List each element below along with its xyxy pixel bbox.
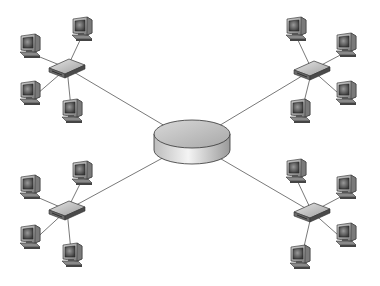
monitor-screen-icon <box>23 84 33 95</box>
computer-bottom-right-3-icon <box>336 223 356 247</box>
computer-bottom-left-3-icon <box>20 225 40 249</box>
monitor-screen-icon <box>293 248 303 259</box>
computer-top-right-3-icon <box>336 81 356 105</box>
computer-bottom-right-4-icon <box>290 245 310 269</box>
monitor-screen-icon <box>339 226 349 237</box>
monitor-screen-icon <box>23 228 33 239</box>
computer-bottom-left-4-icon <box>62 243 82 267</box>
computer-top-left-1-icon <box>20 34 40 58</box>
computer-top-left-3-icon <box>20 81 40 105</box>
computer-bottom-left-2-icon <box>72 161 92 185</box>
monitor-screen-icon <box>75 164 85 175</box>
monitor-screen-icon <box>293 102 303 113</box>
monitor-screen-icon <box>65 102 75 113</box>
monitor-screen-icon <box>289 20 299 31</box>
network-nodes <box>20 17 356 269</box>
monitor-screen-icon <box>23 37 33 48</box>
central-hub-icon <box>154 120 230 164</box>
switch-bottom-right-icon <box>294 203 330 222</box>
monitor-screen-icon <box>23 178 33 189</box>
monitor-screen-icon <box>339 178 349 189</box>
network-diagram <box>0 0 380 286</box>
monitor-screen-icon <box>289 162 299 173</box>
computer-top-right-2-icon <box>336 33 356 57</box>
monitor-screen-icon <box>75 20 85 31</box>
monitor-screen-icon <box>65 246 75 257</box>
monitor-screen-icon <box>339 36 349 47</box>
network-topology-canvas <box>0 0 380 286</box>
computer-bottom-right-2-icon <box>336 175 356 199</box>
computer-top-right-1-icon <box>286 17 306 41</box>
computer-top-right-4-icon <box>290 99 310 123</box>
computer-bottom-left-1-icon <box>20 175 40 199</box>
monitor-screen-icon <box>339 84 349 95</box>
computer-bottom-right-1-icon <box>286 159 306 183</box>
computer-top-left-2-icon <box>72 17 92 41</box>
computer-top-left-4-icon <box>62 99 82 123</box>
switch-bottom-left-icon <box>49 201 85 220</box>
